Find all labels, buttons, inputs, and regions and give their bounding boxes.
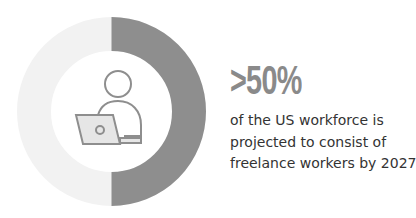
statistic-description: of the US workforce is projected to cons…: [230, 110, 416, 175]
description-line: of the US workforce is: [230, 110, 416, 132]
description-line: freelance workers by 2027: [230, 153, 416, 175]
statistic-block: >50% of the US workforce is projected to…: [230, 60, 416, 175]
donut-chart: [17, 17, 206, 206]
person-at-laptop-icon: [76, 71, 141, 144]
headline-percentage: >50%: [230, 60, 364, 100]
description-line: projected to consist of: [230, 132, 416, 154]
